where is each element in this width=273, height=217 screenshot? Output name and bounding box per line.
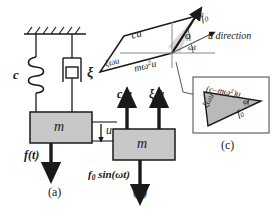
inset-label-phi: φ <box>243 97 248 106</box>
inset-label-hyp-post: )u <box>233 88 242 99</box>
panel-tag-b: (b) <box>133 186 147 198</box>
force-label-f0-sin: f0 sin(ωt) <box>88 169 130 181</box>
phasor-label-phi: φ <box>185 31 191 41</box>
panel-tag-c: (c) <box>221 139 234 151</box>
force-label-xi-udot: ξ u̇ <box>149 88 164 100</box>
spring-element <box>29 34 44 112</box>
force-label-udot-var: u̇ <box>157 87 164 101</box>
mass-label-a: m <box>54 120 64 134</box>
damper-element <box>63 34 81 112</box>
force-label-sin-omega-t: sin(ωt) <box>95 168 130 180</box>
force-label-cu-var: u <box>125 87 132 101</box>
damper-label-xi: ξ <box>87 66 93 80</box>
mass-label-b: m <box>137 137 147 151</box>
panel-tag-a: (a) <box>48 186 61 198</box>
spring-label-c: c <box>13 68 19 81</box>
phasor-label-omega-t: ωt <box>188 44 196 52</box>
ceiling-support <box>24 27 86 34</box>
force-label-cu: c u <box>117 88 132 100</box>
figure-vibration-system: c ξ m u f(t) (a) c u ξ u̇ m f0 sin(ωt) (… <box>0 0 273 217</box>
phasor-label-u-direction: u direction <box>208 31 251 41</box>
force-label-ft: f(t) <box>24 149 39 161</box>
displacement-label-u: u <box>106 124 112 136</box>
